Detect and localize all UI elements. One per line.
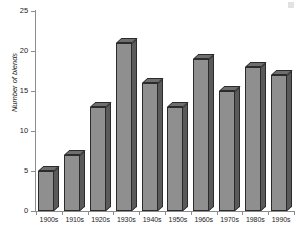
y-tick-label: 20 xyxy=(0,45,28,56)
y-tick-mark xyxy=(31,91,35,92)
bar-front-face xyxy=(90,107,106,211)
x-tick-mark xyxy=(113,211,114,215)
bar-front-face xyxy=(38,171,54,211)
x-tick-label: 1940s xyxy=(139,216,165,223)
bar-1990s xyxy=(271,75,287,211)
y-tick-label: 25 xyxy=(0,5,28,16)
y-tick: 15 xyxy=(0,91,36,92)
bar-1980s xyxy=(245,67,261,211)
bar-front-face xyxy=(219,91,235,211)
bar-front-face xyxy=(116,43,132,211)
bar-side-face xyxy=(106,102,111,211)
x-tick-mark xyxy=(217,211,218,215)
y-tick-label: 15 xyxy=(0,85,28,96)
bar-1920s xyxy=(90,107,106,211)
x-tick-label: 1930s xyxy=(113,216,139,223)
bar-front-face xyxy=(193,59,209,211)
x-tick-label: 1920s xyxy=(88,216,114,223)
bar-1930s xyxy=(116,43,132,211)
bar-front-face xyxy=(64,155,80,211)
y-tick: 0 xyxy=(0,211,36,212)
y-tick-mark xyxy=(31,51,35,52)
bar-1910s xyxy=(64,155,80,211)
x-tick-label: 1900s xyxy=(36,216,62,223)
bar-front-face xyxy=(142,83,158,211)
x-tick-label: 1910s xyxy=(62,216,88,223)
y-tick-label: 5 xyxy=(0,165,28,176)
y-tick-label: 10 xyxy=(0,125,28,136)
bar-1940s xyxy=(142,83,158,211)
bar-front-face xyxy=(271,75,287,211)
x-tick-label: 1950s xyxy=(165,216,191,223)
bar-1900s xyxy=(38,171,54,211)
bar-side-face xyxy=(209,54,214,211)
y-tick-mark xyxy=(31,171,35,172)
y-tick: 20 xyxy=(0,51,36,52)
y-tick: 25 xyxy=(0,11,36,12)
x-tick-label: 1990s xyxy=(268,216,294,223)
scan-artifact xyxy=(288,2,294,8)
x-tick-mark xyxy=(294,211,295,215)
bar-chart: Number of blends 0510152025 1900s1910s19… xyxy=(0,0,298,236)
x-tick-mark xyxy=(88,211,89,215)
x-tick-mark xyxy=(165,211,166,215)
bar-1960s xyxy=(193,59,209,211)
bar-side-face xyxy=(261,62,266,211)
y-tick: 5 xyxy=(0,171,36,172)
bar-side-face xyxy=(287,70,292,211)
bar-side-face xyxy=(235,86,240,211)
bar-side-face xyxy=(183,102,188,211)
x-tick-mark xyxy=(268,211,269,215)
bar-front-face xyxy=(245,67,261,211)
x-tick-mark xyxy=(191,211,192,215)
y-tick-mark xyxy=(31,211,35,212)
x-tick-mark xyxy=(62,211,63,215)
bar-1950s xyxy=(167,107,183,211)
bar-side-face xyxy=(132,38,137,211)
x-tick-mark xyxy=(242,211,243,215)
y-tick: 10 xyxy=(0,131,36,132)
bar-1970s xyxy=(219,91,235,211)
x-tick-mark xyxy=(36,211,37,215)
bar-front-face xyxy=(167,107,183,211)
bar-side-face xyxy=(80,150,85,211)
plot-area xyxy=(36,11,294,211)
bar-side-face xyxy=(158,78,163,211)
y-tick-label: 0 xyxy=(0,205,28,216)
x-tick-label: 1960s xyxy=(191,216,217,223)
bar-side-face xyxy=(54,166,59,211)
x-tick-label: 1970s xyxy=(217,216,243,223)
x-tick-label: 1980s xyxy=(242,216,268,223)
y-tick-mark xyxy=(31,11,35,12)
y-tick-mark xyxy=(31,131,35,132)
x-tick-mark xyxy=(139,211,140,215)
